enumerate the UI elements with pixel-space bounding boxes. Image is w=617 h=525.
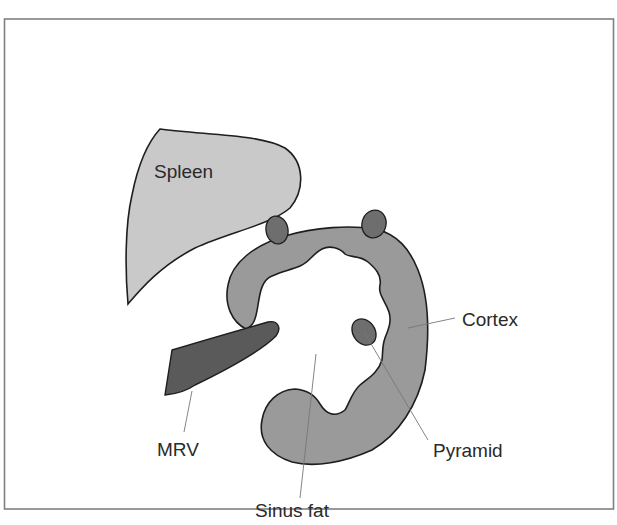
label-mrv: MRV [157,439,199,460]
label-spleen: Spleen [154,161,213,182]
diagram-canvas: Spleen Cortex Pyramid MRV Sinus fat [0,0,617,525]
label-cortex: Cortex [462,309,518,330]
label-pyramid: Pyramid [433,440,503,461]
label-sinus-fat: Sinus fat [255,500,330,521]
